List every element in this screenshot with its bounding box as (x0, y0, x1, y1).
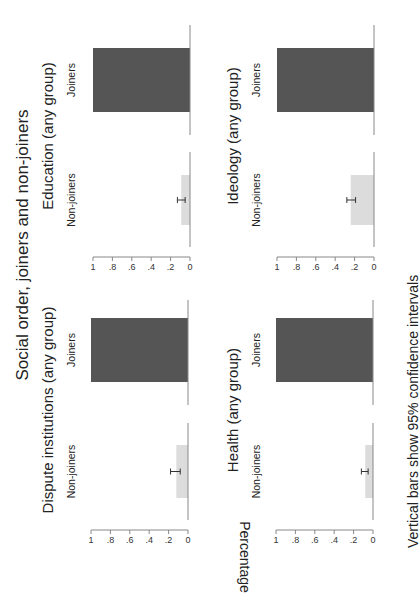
y-tick-label: 0 (370, 535, 375, 545)
bar-joiners (93, 48, 190, 112)
y-axis-label: Percentage (237, 521, 253, 593)
group-label: Joiners (65, 333, 77, 367)
y-tick-label: .8 (293, 262, 301, 272)
panel-title: Education (any group) (39, 62, 56, 210)
chart-svg: Social order, joiners and non-joiners Pe… (0, 0, 420, 609)
panel-title: Health (any group) (224, 348, 241, 472)
panel-title: Ideology (any group) (224, 67, 241, 205)
panel-title: Dispute institutions (any group) (39, 307, 56, 514)
bar-joiners (276, 318, 373, 382)
y-tick-label: .2 (350, 535, 358, 545)
y-tick-label: .2 (351, 262, 359, 272)
panel: Dispute institutions (any group)0.2.4.6.… (39, 300, 191, 545)
y-tick-label: .6 (128, 262, 136, 272)
group-label: Joiners (250, 333, 262, 367)
y-tick-label: 1 (90, 262, 95, 272)
y-tick-label: .2 (167, 262, 175, 272)
panel: Health (any group)0.2.4.6.81Non-joinersJ… (224, 300, 376, 545)
y-tick-label: 1 (88, 535, 93, 545)
y-tick-label: 0 (371, 262, 376, 272)
panel: Education (any group)0.2.4.6.81Non-joine… (39, 25, 193, 272)
group-label: Joiners (250, 63, 262, 97)
panels: Dispute institutions (any group)0.2.4.6.… (39, 25, 377, 545)
y-tick-label: 0 (185, 535, 190, 545)
y-tick-label: .6 (312, 262, 320, 272)
chart-stage: Social order, joiners and non-joiners Pe… (0, 0, 420, 609)
y-tick-label: .8 (292, 535, 300, 545)
bar-joiners (277, 48, 374, 112)
y-tick-label: .4 (147, 262, 155, 272)
y-tick-label: .4 (330, 535, 338, 545)
footnote: Vertical bars show 95% confidence interv… (405, 275, 420, 548)
y-tick-label: .8 (107, 535, 115, 545)
y-tick-label: .6 (126, 535, 134, 545)
y-tick-label: .4 (145, 535, 153, 545)
group-label: Non-joiners (65, 173, 77, 227)
y-tick-label: 0 (187, 262, 192, 272)
chart-title: Social order, joiners and non-joiners (13, 109, 32, 380)
group-label: Non-joiners (250, 445, 262, 499)
panel: Ideology (any group)0.2.4.6.81Non-joiner… (224, 25, 377, 272)
y-tick-label: .2 (165, 535, 173, 545)
y-tick-label: .4 (331, 262, 339, 272)
group-label: Joiners (65, 63, 77, 97)
bar-joiners (91, 318, 188, 382)
group-label: Non-joiners (250, 173, 262, 227)
y-tick-label: 1 (274, 262, 279, 272)
y-tick-label: .8 (109, 262, 117, 272)
group-label: Non-joiners (65, 445, 77, 499)
y-tick-label: .6 (311, 535, 319, 545)
y-tick-label: 1 (273, 535, 278, 545)
